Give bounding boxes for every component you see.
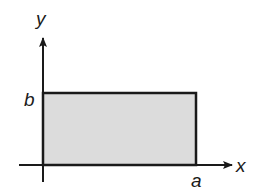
x-axis-label: x	[235, 155, 247, 176]
y-axis-label: y	[34, 8, 47, 29]
height-label-b: b	[24, 89, 35, 110]
coordinate-diagram: y x b a	[0, 0, 258, 195]
shaded-rectangle	[43, 93, 196, 165]
width-label-a: a	[191, 170, 202, 191]
